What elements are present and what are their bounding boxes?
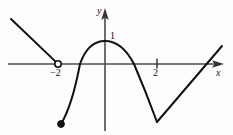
right-ray-segment xyxy=(157,46,222,122)
x-axis xyxy=(8,60,224,68)
x-axis-label: x xyxy=(216,68,220,78)
filled-dot-endpoint-marker xyxy=(58,121,65,128)
x-tick-label-negative-2: −2 xyxy=(50,68,61,78)
y-axis-label: y xyxy=(97,6,101,16)
graph-canvas xyxy=(0,0,233,135)
parabola-branch-curve xyxy=(61,41,157,124)
y-axis xyxy=(101,8,108,131)
graph-figure: y x 1 −2 2 xyxy=(0,0,233,135)
left-ray-segment xyxy=(11,19,56,62)
y-tick-label-1: 1 xyxy=(110,31,115,41)
x-tick-label-2: 2 xyxy=(153,68,158,78)
